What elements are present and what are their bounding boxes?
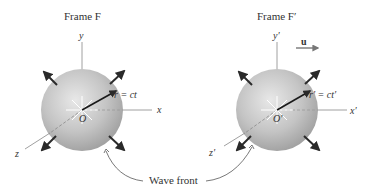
origin-label: O <box>79 113 86 124</box>
leader-left <box>106 151 143 181</box>
frame-f-prime-title: Frame F′ <box>257 10 296 22</box>
arrow-se-icon <box>109 136 124 150</box>
origin-prime-label: O′ <box>273 113 283 124</box>
wave-front-diagram: Frame F y x z O r = ct <box>0 0 375 191</box>
x-axis-label: x <box>156 104 162 115</box>
z-prime-axis-label: z′ <box>208 147 216 158</box>
arrow-nw-icon <box>44 72 57 85</box>
x-prime-axis-label: x′ <box>349 105 357 116</box>
radius-label: r = ct <box>114 89 137 100</box>
arrow-ne-icon <box>110 71 124 84</box>
arrow-ne-prime-icon <box>305 71 319 84</box>
wave-front-label: Wave front <box>149 174 198 186</box>
radius-prime-label: r′ = ct′ <box>309 89 337 100</box>
velocity-label: u <box>301 36 307 47</box>
arrow-sw-icon <box>42 136 56 150</box>
arrow-nw-prime-icon <box>239 72 252 85</box>
y-prime-axis-label: y′ <box>272 30 280 41</box>
frame-f-title: Frame F <box>64 10 101 22</box>
arrow-se-prime-icon <box>304 136 319 150</box>
wave-front-callout: Wave front <box>104 145 254 186</box>
z-axis-label: z <box>14 148 19 159</box>
y-axis-label: y <box>78 30 84 41</box>
frame-f-prime: Frame F′ y′ u x′ z′ O′ r′ = ct′ <box>208 10 357 158</box>
frame-f: Frame F y x z O r = ct <box>14 10 162 159</box>
